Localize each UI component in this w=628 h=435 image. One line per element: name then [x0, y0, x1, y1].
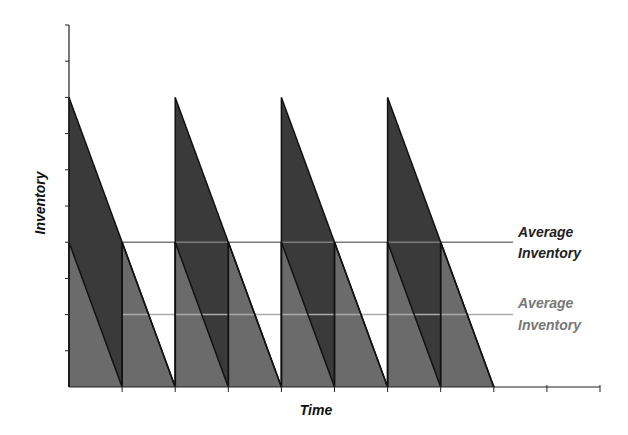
average-inventory-label-large-2: Inventory — [518, 245, 582, 261]
average-inventory-label-small: Average — [517, 295, 573, 311]
y-axis-label: Inventory — [32, 170, 48, 234]
x-axis-label: Time — [300, 402, 333, 418]
average-inventory-label-large: Average — [517, 224, 573, 240]
average-inventory-label-small-2: Inventory — [518, 317, 582, 333]
inventory-sawtooth-chart: Inventory Time Average Inventory Average… — [0, 0, 628, 435]
